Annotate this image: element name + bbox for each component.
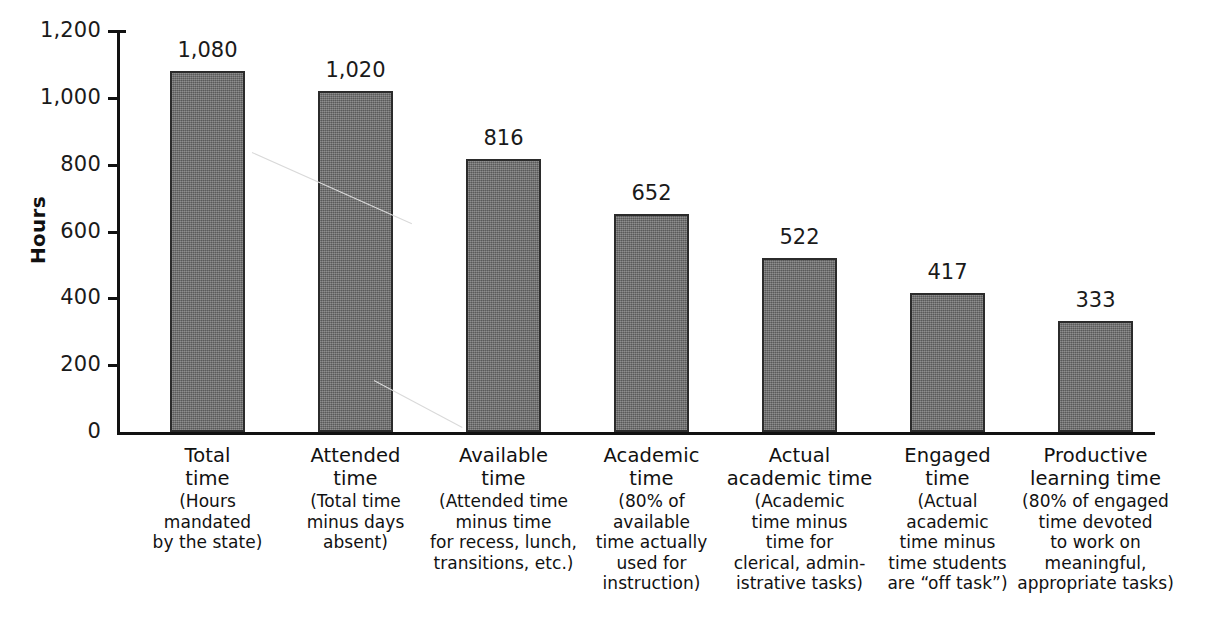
category-title-line: academic time (718, 467, 882, 490)
bar[interactable] (762, 258, 837, 432)
category-description-line: appropriate tasks) (1014, 573, 1178, 594)
category-description-line: time students (866, 553, 1030, 574)
category-description-line: absent) (274, 532, 438, 553)
category-title-line: Total (126, 444, 290, 467)
category-description-line: to work on (1014, 532, 1178, 553)
bar[interactable] (170, 71, 245, 432)
category-title-line: time (126, 467, 290, 490)
category-description-line: minus time (422, 512, 586, 533)
x-axis-category-label: Academictime(80% ofavailabletime actuall… (570, 444, 734, 594)
category-description-line: are “off task”) (866, 573, 1030, 594)
category-title-line: Available (422, 444, 586, 467)
bar-value-label: 1,020 (286, 60, 426, 81)
x-axis-category-label: Productivelearning time(80% of engagedti… (1014, 444, 1178, 594)
category-description-line: academic (866, 512, 1030, 533)
x-axis-category-label: Availabletime(Attended timeminus timefor… (422, 444, 586, 573)
bar-chart: Hours 02004006008001,0001,2001,080Totalt… (0, 0, 1205, 628)
y-axis-tick (108, 97, 120, 100)
bar-value-label: 417 (878, 262, 1018, 283)
category-description-line: time minus (866, 532, 1030, 553)
y-axis-tick (108, 297, 120, 300)
bar[interactable] (1058, 321, 1133, 432)
category-description-line: transitions, etc.) (422, 553, 586, 574)
category-description-line: (80% of (570, 491, 734, 512)
y-axis-tick-label-text: 1,000 (40, 87, 101, 108)
x-axis-line (117, 432, 1155, 435)
y-axis-title: Hours (16, 185, 60, 275)
category-title-line: time (274, 467, 438, 490)
category-description-line: meaningful, (1014, 553, 1178, 574)
category-title-line: learning time (1014, 467, 1178, 490)
category-title-line: time (422, 467, 586, 490)
category-description-line: istrative tasks) (718, 573, 882, 594)
category-title-line: Academic (570, 444, 734, 467)
y-axis-tick (108, 364, 120, 367)
bar-value-label: 522 (730, 227, 870, 248)
category-description-line: (Academic (718, 491, 882, 512)
x-axis-category-label: Attendedtime(Total timeminus daysabsent) (274, 444, 438, 553)
category-description-line: (Total time (274, 491, 438, 512)
x-axis-category-label: Actualacademic time(Academictime minusti… (718, 444, 882, 594)
category-description-line: mandated (126, 512, 290, 533)
y-axis-tick-label-text: 0 (87, 421, 101, 442)
bar-value-label: 652 (582, 183, 722, 204)
category-title-line: Engaged (866, 444, 1030, 467)
y-axis-tick (108, 30, 120, 33)
bar[interactable] (318, 91, 393, 432)
category-description-line: (80% of engaged (1014, 491, 1178, 512)
category-description-line: time devoted (1014, 512, 1178, 533)
x-axis-category-label: Engagedtime(Actualacademictime minustime… (866, 444, 1030, 594)
bar-value-label: 1,080 (138, 40, 278, 61)
category-description-line: used for (570, 553, 734, 574)
category-description-line: for recess, lunch, (422, 532, 586, 553)
category-description-line: time for (718, 532, 882, 553)
category-title-line: time (866, 467, 1030, 490)
bar[interactable] (614, 214, 689, 432)
category-description-line: (Attended time (422, 491, 586, 512)
category-description-line: minus days (274, 512, 438, 533)
category-description-line: (Actual (866, 491, 1030, 512)
category-description-line: instruction) (570, 573, 734, 594)
bar[interactable] (910, 293, 985, 432)
category-title-line: Attended (274, 444, 438, 467)
y-axis-tick-label-text: 800 (60, 154, 101, 175)
y-axis-title-label: Hours (26, 196, 50, 264)
y-axis-tick (108, 231, 120, 234)
y-axis-bottom-cap (117, 432, 126, 435)
y-axis-tick-label-text: 200 (60, 354, 101, 375)
bar[interactable] (466, 159, 541, 432)
category-title-line: Productive (1014, 444, 1178, 467)
y-axis-tick (108, 164, 120, 167)
x-axis-category-label: Totaltime(Hoursmandatedby the state) (126, 444, 290, 553)
category-description-line: by the state) (126, 532, 290, 553)
category-description-line: time actually (570, 532, 734, 553)
y-axis-tick-label-text: 1,200 (40, 20, 101, 41)
y-axis-tick-label-text: 400 (60, 287, 101, 308)
category-title-line: Actual (718, 444, 882, 467)
category-description-line: clerical, admin- (718, 553, 882, 574)
category-title-line: time (570, 467, 734, 490)
y-axis-tick-label-text: 600 (60, 221, 101, 242)
bar-value-label: 333 (1026, 290, 1166, 311)
category-description-line: time minus (718, 512, 882, 533)
bar-value-label: 816 (434, 128, 574, 149)
category-description-line: available (570, 512, 734, 533)
category-description-line: (Hours (126, 491, 290, 512)
